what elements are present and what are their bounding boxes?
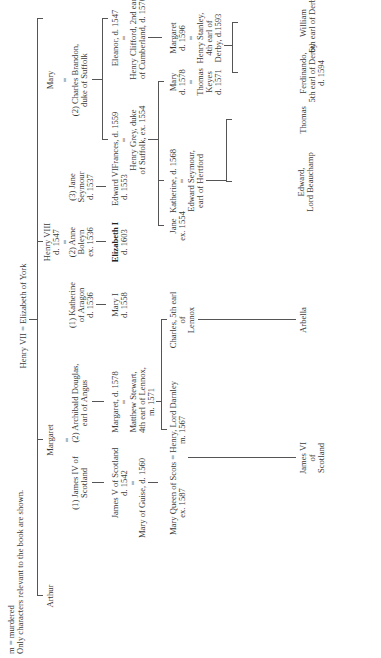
mary-grey-drop [158,81,164,82]
keyes-l3: d. 1571 [213,69,223,95]
katherine-grey-drop [158,180,164,181]
frances-drop [102,139,108,140]
thomas-seymour: Thomas [298,106,308,134]
anne-child-line [96,241,106,242]
henry-grey-l2: of Suffolk, ex. 1554 [137,106,147,175]
mqs-death: ex. 1587 [177,488,187,518]
stanley-stem [224,45,232,46]
darnley-drop [161,429,167,430]
legend-note: Only characters relevant to the book are… [15,490,25,654]
stanley-children-line [232,23,233,73]
stanley-l3: Derby, d.1593 [213,14,223,63]
clifford-l2: of Cumberland, d. 1570 [137,0,147,79]
james4-child-line [92,482,104,483]
archibald-title: earl of Angus [79,380,89,426]
family-tree-diagram: m = murdered Only characters relevant to… [0,0,381,658]
mary1-death: d. 1558 [119,292,129,318]
root-stem-line [29,319,37,320]
william-drop [232,22,238,23]
charles-lennox-drop [161,319,167,320]
katherine-aragon-l3: d. 1536 [85,292,95,318]
matthew-stewart-l3: m. 1571 [146,388,156,416]
seymour-children-line [226,120,227,182]
elizabeth1-death: d. 1603 [119,229,129,255]
darnley-death: m. 1567 [177,416,187,444]
edward6-death: d. 1553 [119,174,129,200]
edward-drop [226,181,232,182]
ferdinando-l3: d. 1594 [316,60,326,86]
brandon-stem [92,79,102,80]
anne-boleyn-l3: ex. 1536 [85,227,95,257]
person-margaret: Margaret [45,424,55,455]
arbella: Arbella [298,307,308,333]
marriage-sign: = [60,78,70,83]
thomas-drop [226,119,232,120]
brandon-children-line [102,19,103,140]
mary-of-guise: Mary of Guise, d. 1560 [137,458,147,538]
william-l2: 6th earl of Derby [307,0,317,52]
jane-grey-drop [158,225,164,226]
margaret-drop [37,439,43,440]
charles-brandon-l2: duke of Suffolk [79,53,89,107]
clifford-child-line [148,37,162,38]
edward-seymour-l2: earl of Hertford [195,154,205,208]
grey-children-line [158,82,159,226]
mary-drop [37,18,43,19]
james6-l3: Scotland [316,443,326,473]
gen1-sibling-line [37,18,38,596]
lennox-children-line [161,320,162,430]
james5-child-line [148,482,158,483]
edward-beauchamp-l2: Lord Beauchamp [305,152,315,211]
seymour-stem [206,180,226,181]
ferdinando-drop [232,72,238,73]
charles-lennox-child-line [198,319,296,320]
grey-stem [148,139,158,140]
jane-seymour-l3: d. 1537 [85,174,95,200]
charles-lennox-l3: Lennox [186,307,196,333]
person-arthur: Arthur [45,585,55,608]
archibald-child-line [92,401,104,402]
mqs-child-line [188,457,296,458]
katherine-child-line [96,304,106,305]
person-mary: Mary [45,71,55,90]
james4-title: Scotland [79,468,89,498]
root-couple: Henry VII = Elizabeth of York [18,264,28,369]
jane-child-line [96,186,106,187]
eleanor-drop [102,18,108,19]
jane-grey-death: ex. 1554 [177,211,187,241]
arthur-drop [37,595,43,596]
